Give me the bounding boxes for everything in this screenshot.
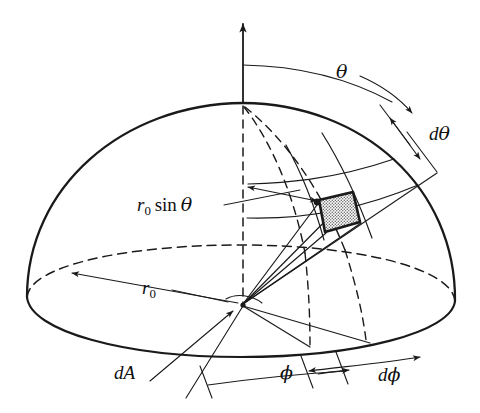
- dphi-arrow: [309, 357, 420, 371]
- ray-base-phi-edge-1: [243, 306, 310, 347]
- label-r0-sin-theta: r0 sin θ: [137, 195, 192, 218]
- label-phi-symbol: ϕ: [280, 361, 293, 383]
- origin-node: [240, 302, 245, 307]
- meridian-dashed-2-lower: [345, 250, 366, 340]
- theta-arc: [243, 65, 392, 102]
- base-rim-back: [27, 245, 455, 301]
- label-dA: dA: [114, 363, 135, 382]
- label-d-phi: dϕ: [378, 365, 400, 384]
- label-r0-subscript: 0: [149, 286, 155, 301]
- label-d-phi-symbol: ϕ: [388, 363, 401, 385]
- label-theta-symbol: θ: [336, 60, 347, 82]
- dphi-tick-2: [301, 356, 313, 388]
- label-d-theta: dθ: [429, 124, 450, 143]
- patch-corner-node: [314, 199, 321, 206]
- dtheta-arrow: [390, 118, 420, 159]
- ray-base-phi-edge-2: [243, 306, 370, 343]
- label-dA-A: A: [124, 362, 136, 383]
- label-dA-d: d: [114, 362, 124, 383]
- dA-patch: [319, 192, 360, 232]
- phi-arc-tick-start: [200, 366, 212, 398]
- r-sin-theta-leader: [224, 190, 300, 205]
- label-phi: ϕ: [280, 363, 293, 382]
- label-d-phi-d: d: [378, 364, 388, 385]
- label-r0-sin-theta-sin: sin: [155, 194, 177, 215]
- dA-leader: [150, 311, 233, 381]
- label-r0: r0: [142, 278, 156, 301]
- r0-leader-right: [172, 290, 228, 302]
- hemisphere-diagram: [0, 0, 480, 413]
- label-theta: θ: [336, 62, 347, 81]
- label-r0-sin-theta-symbol: θ: [181, 193, 192, 215]
- meridian-solid-left: [286, 145, 324, 240]
- theta-leader: [360, 76, 412, 113]
- meridian-dashed-1-lower: [305, 253, 310, 346]
- figure-container: θ dθ r0 sin θ r0 dA ϕ dϕ: [0, 0, 480, 413]
- meridian-dashed-1: [244, 107, 305, 253]
- label-d-theta-symbol: θ: [439, 122, 450, 144]
- parallel-arc-upper: [248, 159, 394, 184]
- ray-to-patch-corner-3: [243, 233, 326, 304]
- label-d-theta-d: d: [429, 123, 439, 144]
- ray-extended-outer: [243, 173, 437, 304]
